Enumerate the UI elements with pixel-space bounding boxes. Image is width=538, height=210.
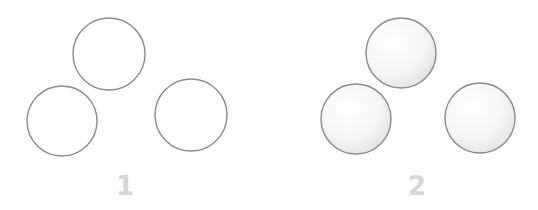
panel-1-label: 1 xyxy=(116,173,134,199)
circle-top xyxy=(366,18,436,88)
circles-drawing xyxy=(0,0,538,210)
circle-top xyxy=(73,18,145,90)
circle-left xyxy=(27,86,97,156)
circle-left xyxy=(321,84,391,154)
diagram-canvas: 1 2 xyxy=(0,0,538,210)
circle-right xyxy=(155,79,227,151)
panel-2-label: 2 xyxy=(408,173,426,199)
panel-2-shaded-circles xyxy=(321,18,515,154)
panel-1-outline-circles xyxy=(27,18,227,156)
circle-right xyxy=(445,83,515,153)
